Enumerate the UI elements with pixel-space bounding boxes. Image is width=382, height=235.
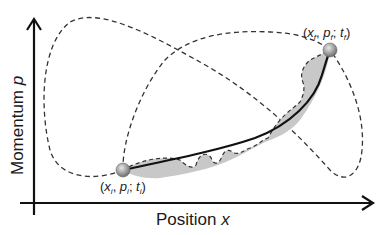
final-point-marker (323, 43, 337, 57)
phase-space-diagram: (xi, pi; ti) (xf, pf; tf) Position x Mom… (0, 0, 382, 235)
fluctuating-path (123, 50, 330, 178)
initial-point-label: (xi, pi; ti) (100, 179, 146, 196)
final-point-label: (xf, pf; tf) (303, 25, 350, 42)
y-axis-label: Momentum p (8, 76, 27, 175)
initial-point-marker (116, 163, 130, 177)
fluctuation-shading (123, 50, 330, 178)
x-axis-label: Position x (156, 210, 230, 229)
axes (20, 19, 373, 215)
dashed-path-right-loop (123, 32, 330, 170)
